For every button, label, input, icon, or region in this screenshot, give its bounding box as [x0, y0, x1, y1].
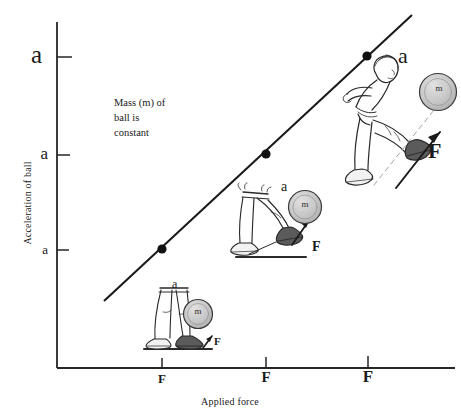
- physics-diagram: Acceleration of ball Applied force a a a…: [0, 0, 461, 413]
- force-label: F: [312, 239, 321, 256]
- x-axis-ticks: [162, 356, 368, 368]
- force-label: F: [428, 138, 441, 164]
- kicker-figure-medium: [231, 183, 322, 257]
- data-point: [362, 51, 371, 60]
- x-axis-title: Applied force: [150, 396, 310, 408]
- kicker-figure-small: [144, 288, 213, 349]
- y-axis-tick-label: a: [8, 242, 48, 257]
- mass-label: m: [425, 83, 453, 94]
- y-axis-tick-label: a: [8, 144, 48, 164]
- y-axis-tick-label: a: [2, 40, 42, 70]
- force-label: F: [214, 335, 221, 348]
- data-point: [261, 149, 270, 158]
- x-axis-tick-label: F: [142, 371, 182, 386]
- kicker-figure-large: [343, 55, 456, 188]
- x-axis-tick-label: F: [246, 369, 286, 387]
- mass-label: m: [292, 199, 318, 210]
- constant-mass-note: Mass (m) of ball is constant: [114, 96, 165, 141]
- acceleration-label: a: [281, 179, 287, 196]
- plot-canvas: [0, 0, 461, 413]
- data-point: [157, 244, 166, 253]
- acceleration-label: a: [398, 43, 408, 69]
- mass-label: m: [186, 306, 210, 317]
- acceleration-label: a: [172, 277, 177, 291]
- y-axis-ticks: [57, 57, 72, 250]
- x-axis-tick-label: F: [348, 367, 388, 387]
